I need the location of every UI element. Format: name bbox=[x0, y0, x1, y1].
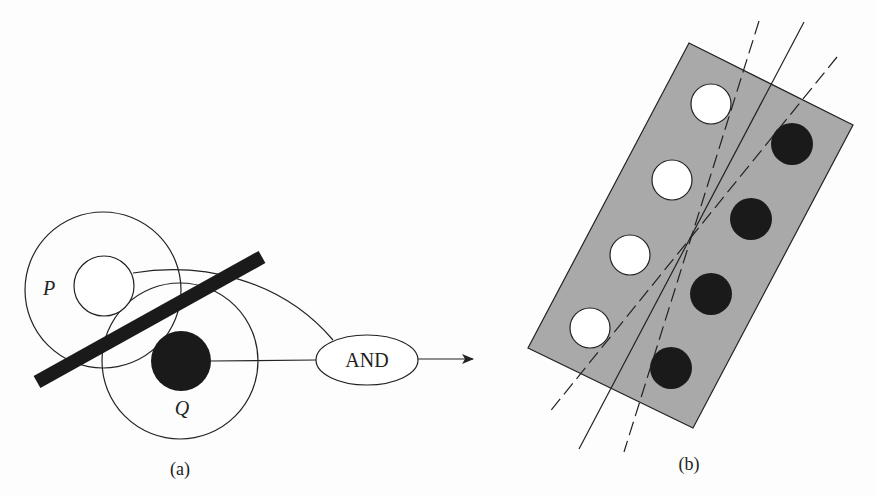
black-dot bbox=[650, 347, 692, 389]
caption-b: (b) bbox=[679, 454, 700, 475]
white-dot bbox=[610, 235, 650, 275]
white-dot bbox=[652, 160, 692, 200]
black-dot bbox=[730, 198, 772, 240]
q-to-and-connection bbox=[211, 360, 316, 361]
white-dot bbox=[691, 84, 731, 124]
panel-b: (b) bbox=[528, 21, 853, 475]
white-dot bbox=[570, 308, 610, 348]
black-dot bbox=[690, 273, 732, 315]
label-p: P bbox=[42, 277, 55, 299]
bar-stimulus bbox=[37, 257, 262, 382]
panel-a: AND P Q (a) bbox=[25, 212, 473, 480]
caption-a: (a) bbox=[170, 459, 190, 480]
receptive-field-q-center bbox=[151, 331, 211, 391]
and-gate-label: AND bbox=[345, 349, 388, 371]
black-dot bbox=[771, 123, 813, 165]
receptive-field-p-center bbox=[74, 256, 134, 316]
label-q: Q bbox=[175, 397, 190, 419]
figure: AND P Q (a) (b) bbox=[0, 0, 876, 497]
